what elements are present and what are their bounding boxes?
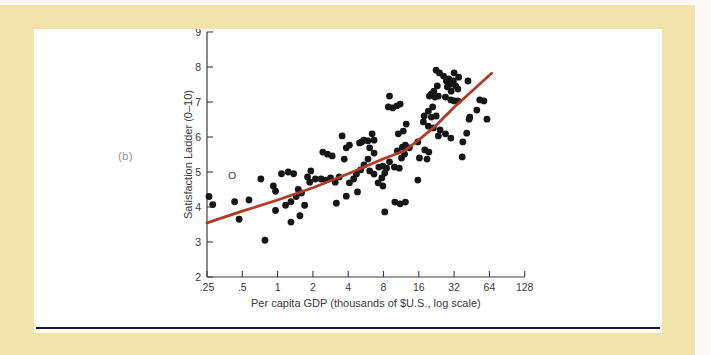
- data-point: [366, 144, 373, 151]
- data-point: [447, 135, 454, 142]
- data-point: [398, 155, 405, 162]
- data-point: [397, 101, 404, 108]
- data-point: [379, 183, 386, 190]
- scatter-plot: .25.5124816326412823456789Per capita GDP…: [34, 29, 662, 333]
- data-point: [381, 209, 388, 216]
- data-point: [435, 133, 442, 140]
- data-point: [333, 200, 340, 207]
- data-point: [272, 207, 279, 214]
- x-tick-label: 1: [275, 281, 281, 293]
- data-point: [402, 199, 409, 206]
- data-point: [288, 219, 295, 226]
- data-point: [428, 91, 435, 98]
- data-point: [236, 216, 243, 223]
- data-point: [354, 189, 361, 196]
- x-tick-label: .5: [238, 281, 247, 293]
- data-point: [371, 137, 378, 144]
- y-tick-label: 5: [195, 166, 201, 178]
- x-tick-label: 32: [448, 281, 460, 293]
- y-tick-label: 7: [195, 96, 201, 108]
- data-point-open: [229, 172, 235, 178]
- data-point: [329, 153, 336, 160]
- x-tick-label: 64: [484, 281, 496, 293]
- y-tick-label: 8: [195, 61, 201, 73]
- data-point: [365, 156, 372, 163]
- y-tick-label: 9: [195, 29, 201, 38]
- data-point: [455, 86, 462, 93]
- data-point: [257, 176, 264, 183]
- data-point: [346, 179, 353, 186]
- y-axis-title: Satisfaction Ladder (0–10): [182, 90, 194, 219]
- data-point: [433, 113, 440, 120]
- data-point: [465, 78, 472, 85]
- y-tick-label: 3: [195, 236, 201, 248]
- data-point: [400, 128, 407, 135]
- x-axis-title: Per capita GDP (thousands of $U.S., log …: [251, 297, 481, 309]
- data-point: [466, 116, 473, 123]
- data-point: [231, 198, 238, 205]
- data-point: [343, 193, 350, 200]
- data-point: [246, 197, 253, 204]
- data-point: [386, 93, 393, 100]
- data-point: [346, 142, 353, 149]
- data-point: [414, 177, 421, 184]
- data-point: [425, 149, 432, 156]
- x-tick-label: 128: [516, 281, 534, 293]
- data-point: [484, 116, 491, 123]
- data-point: [206, 193, 213, 200]
- data-point: [341, 156, 348, 163]
- data-point: [307, 168, 314, 175]
- data-point: [365, 137, 372, 144]
- data-point: [386, 158, 393, 165]
- data-point: [481, 98, 488, 105]
- data-point: [272, 188, 279, 195]
- data-point: [421, 113, 428, 120]
- y-tick-label: 4: [195, 201, 201, 213]
- data-point: [459, 139, 466, 146]
- x-tick-label: 16: [413, 281, 425, 293]
- data-point: [396, 165, 403, 172]
- data-point: [262, 237, 269, 244]
- data-point: [209, 201, 216, 208]
- data-point: [416, 155, 423, 162]
- data-point: [448, 88, 455, 95]
- data-point: [358, 139, 365, 146]
- data-point: [442, 130, 449, 137]
- data-point: [473, 107, 480, 114]
- data-point: [371, 171, 378, 178]
- data-point: [297, 212, 304, 219]
- x-tick-label: .25: [200, 281, 215, 293]
- data-point: [369, 130, 376, 137]
- x-tick-label: 4: [345, 281, 351, 293]
- data-point: [290, 170, 297, 177]
- x-tick-label: 2: [310, 281, 316, 293]
- figure-panel: (b) .25.5124816326412823456789Per capita…: [34, 29, 662, 333]
- data-point: [403, 121, 410, 128]
- data-point: [442, 94, 449, 101]
- data-point: [424, 156, 431, 163]
- data-point: [463, 130, 470, 137]
- data-point: [339, 133, 346, 140]
- x-tick-label: 8: [381, 281, 387, 293]
- y-tick-label: 2: [195, 271, 201, 283]
- data-point: [459, 154, 466, 161]
- figure-bottom-rule: [36, 327, 660, 329]
- data-point: [301, 202, 308, 209]
- y-tick-label: 6: [195, 131, 201, 143]
- data-point: [282, 202, 289, 209]
- data-point: [371, 150, 378, 157]
- data-point: [278, 170, 285, 177]
